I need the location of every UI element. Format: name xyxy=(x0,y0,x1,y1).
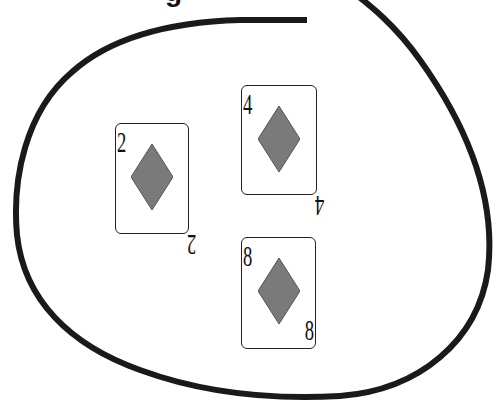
card-rank-top: 8 xyxy=(243,241,252,271)
card-8-diamonds: 8 8 xyxy=(241,237,316,349)
card-4-diamonds: 4 4 xyxy=(241,85,317,195)
diamond-icon xyxy=(131,144,173,210)
card-rank-bottom: 8 xyxy=(305,315,314,345)
card-rank-bottom: 2 xyxy=(187,230,196,260)
card-rank-bottom: 4 xyxy=(315,191,324,221)
diamond-icon xyxy=(258,258,300,324)
enclosure-loop xyxy=(0,0,498,418)
card-rank-top: 4 xyxy=(243,89,252,119)
card-2-diamonds: 2 2 xyxy=(115,123,189,234)
card-rank-top: 2 xyxy=(117,127,126,157)
diamond-icon xyxy=(258,106,300,172)
